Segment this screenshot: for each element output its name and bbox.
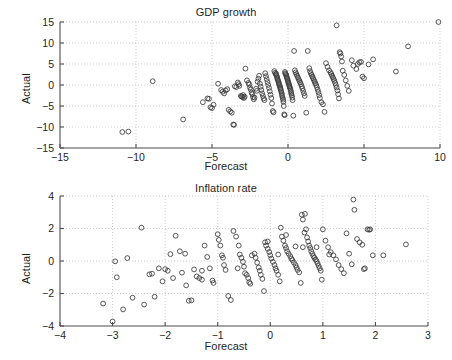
data-point-marker [229,110,234,115]
data-point-marker [248,281,253,286]
x-axis-label-inflation: Forecast [0,340,452,352]
data-point-marker [342,73,347,78]
data-point-marker [340,59,345,64]
data-point-marker [349,58,354,63]
data-point-marker [181,117,186,122]
data-points [120,20,441,135]
data-point-marker [218,243,223,248]
data-point-marker [256,265,261,270]
data-point-marker [281,238,286,243]
tick-labels: −15−10−5051015−15−10−50510 [36,16,446,163]
data-point-marker [284,233,289,238]
tick-label-y: 15 [42,16,54,28]
data-point-marker [314,245,319,250]
data-point-marker [257,73,262,78]
data-point-marker [276,252,281,257]
data-point-marker [150,79,155,84]
data-point-marker [334,23,339,28]
data-point-marker [343,78,348,83]
tick-label-y: 0 [48,255,54,267]
data-point-marker [216,237,221,242]
data-point-marker [345,83,350,88]
data-point-marker [300,217,305,222]
data-point-marker [291,113,296,118]
data-point-marker [222,263,227,268]
data-point-marker [319,277,324,282]
tick-label-y: 4 [48,190,54,202]
data-point-marker [262,98,267,103]
data-point-marker [125,256,130,261]
data-point-marker [346,88,351,93]
data-point-marker [277,279,282,284]
data-point-marker [303,211,308,216]
data-point-marker [304,110,309,115]
data-point-marker [126,129,131,134]
data-point-marker [216,81,221,86]
data-point-marker [259,88,264,93]
data-point-marker [231,229,236,234]
data-point-marker [184,283,189,288]
data-point-marker [351,197,356,202]
data-point-marker [366,62,371,67]
scatter-plot-inflation: −4−2024−4−3−2−10123 [0,180,452,360]
data-point-marker [207,266,212,271]
data-point-marker [278,225,283,230]
data-point-marker [114,275,119,280]
data-point-marker [156,266,161,271]
data-point-marker [171,276,176,281]
data-point-marker [255,260,260,265]
data-point-marker [228,298,233,303]
tick-label-y: 5 [48,58,54,70]
data-point-marker [267,86,272,91]
data-point-marker [352,207,357,212]
data-point-marker [142,302,147,307]
data-point-marker [355,237,360,242]
figure-page: GDP growth −15−10−5051015−15−10−50510 Fo… [0,0,452,360]
data-point-marker [322,109,327,114]
data-point-marker [270,101,275,106]
data-point-marker [243,66,248,71]
data-point-marker [267,89,272,94]
data-point-marker [121,307,126,312]
data-point-marker [139,225,144,230]
data-point-marker [180,270,185,275]
data-point-marker [160,279,165,284]
data-points [101,197,409,324]
data-point-marker [205,255,210,260]
data-point-marker [200,268,205,273]
data-point-marker [349,262,354,267]
data-point-marker [276,272,281,277]
data-point-marker [323,238,328,243]
data-point-marker [298,281,303,286]
data-point-marker [200,100,205,105]
data-point-marker [371,57,376,62]
data-point-marker [394,69,399,74]
data-point-marker [293,244,298,249]
panel-inflation-rate: Inflation rate −4−2024−4−3−2−10123 Forec… [0,180,452,360]
tick-label-y: −2 [42,287,54,299]
data-point-marker [305,49,310,54]
data-point-marker [223,88,228,93]
data-point-marker [268,92,273,97]
tick-labels: −4−2024−4−3−2−10123 [42,190,431,341]
data-point-marker [192,267,197,272]
data-point-marker [260,276,265,281]
data-point-marker [168,252,173,257]
data-point-marker [223,268,228,273]
data-point-marker [326,245,331,250]
data-point-marker [225,87,230,92]
y-axis-label-inflation: Actual [20,253,32,284]
data-point-marker [347,251,352,256]
panel-gdp-growth: GDP growth −15−10−5051015−15−10−50510 Fo… [0,0,452,180]
tick-label-y: 0 [48,79,54,91]
data-point-marker [120,130,125,135]
data-point-marker [173,233,178,238]
data-point-marker [339,54,344,59]
data-point-marker [101,301,106,306]
data-point-marker [152,294,157,299]
data-point-marker [300,245,305,250]
data-point-marker [236,243,241,248]
data-point-marker [381,253,386,258]
tick-label-y: −4 [42,320,54,332]
data-point-marker [235,266,240,271]
